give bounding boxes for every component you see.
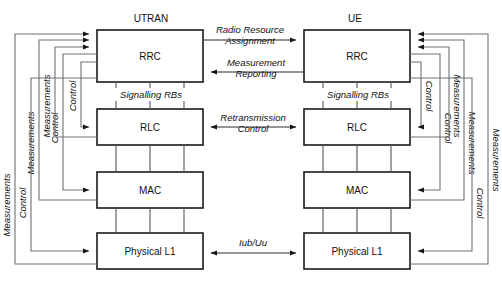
box-label-ue-phy: Physical L1 bbox=[331, 246, 383, 257]
rail-label-utran-control-phy: Control bbox=[17, 187, 28, 219]
utran-interlayer-connectors bbox=[116, 82, 184, 233]
stack-title-ue: UE bbox=[348, 13, 362, 24]
rail-label-ue-measurements-phy: Measurements bbox=[491, 129, 502, 192]
rail-utran-measurements-mac: Measurements bbox=[25, 40, 97, 200]
rail-utran-control-rlc: Control bbox=[67, 62, 97, 127]
rail-label-utran-measurements-phy: Measurements bbox=[1, 173, 12, 236]
box-label-utran-rlc: RLC bbox=[140, 122, 160, 133]
box-label-utran-phy: Physical L1 bbox=[124, 246, 176, 257]
flow-retransmission-control: Retransmission Control bbox=[211, 112, 296, 134]
ue-interlayer-connectors bbox=[323, 82, 391, 233]
flow-label-iubuu: Iub/Uu bbox=[239, 237, 268, 248]
rail-ue-control-mac: Control bbox=[410, 54, 454, 190]
box-label-ue-mac: MAC bbox=[346, 185, 368, 196]
flow-label-rra-line1: Radio Resource bbox=[216, 24, 284, 35]
rail-utran-measurements-phy: Measurements bbox=[1, 34, 97, 264]
rail-ue-measurements-rlc: Measurements bbox=[410, 47, 463, 138]
rail-label-utran-control-rlc: Control bbox=[67, 80, 78, 112]
flow-iub-uu: Iub/Uu bbox=[211, 237, 296, 253]
label-signalling-rbs-utran: Signalling RBs bbox=[120, 89, 182, 100]
flow-label-mr-line2: Reporting bbox=[235, 68, 277, 79]
box-label-utran-rrc: RRC bbox=[139, 51, 161, 62]
label-signalling-rbs-ue: Signalling RBs bbox=[327, 89, 389, 100]
stack-title-utran: UTRAN bbox=[134, 13, 168, 24]
flow-radio-resource-assignment: Radio Resource Assignment bbox=[203, 24, 296, 46]
box-label-utran-mac: MAC bbox=[139, 185, 161, 196]
flow-label-rc-line2: Control bbox=[238, 123, 270, 134]
flow-label-rra-line2: Assignment bbox=[224, 35, 275, 46]
box-label-ue-rlc: RLC bbox=[347, 122, 367, 133]
rail-ue-control-rlc: Control bbox=[410, 62, 435, 127]
rail-label-ue-control-rlc: Control bbox=[424, 81, 435, 113]
rail-utran-control-mac: Control bbox=[49, 54, 97, 190]
flow-label-rc-line1: Retransmission bbox=[220, 112, 285, 123]
rail-label-ue-measurements-rlc: Measurements bbox=[452, 75, 463, 138]
flow-measurement-reporting: Measurement Reporting bbox=[211, 57, 304, 79]
diagram-canvas: UTRAN UE RRC RLC MAC Physical L1 RRC RLC… bbox=[0, 0, 502, 284]
rail-ue-measurements-phy: Measurements bbox=[410, 34, 502, 264]
rail-label-utran-measurements-rlc: Measurements bbox=[41, 74, 52, 137]
rail-label-ue-control-phy: Control bbox=[475, 188, 486, 220]
protocol-stack-diagram: UTRAN UE RRC RLC MAC Physical L1 RRC RLC… bbox=[0, 0, 502, 284]
flow-label-mr-line1: Measurement bbox=[227, 57, 285, 68]
box-label-ue-rrc: RRC bbox=[346, 51, 368, 62]
